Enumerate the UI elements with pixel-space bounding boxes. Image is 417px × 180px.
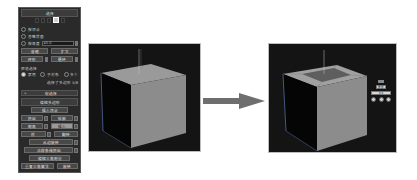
preview-selection-options: 禁用 子对象 多个 [21,71,78,77]
loop-spinner-icon[interactable] [75,57,78,62]
extrude-spline-row: 沿样条线挤出 [21,147,78,153]
selection-rollout-title: 选择 [46,11,54,16]
vertex-mode-icon[interactable] [35,18,39,23]
bridge-flip-row: 桥 翻转 [21,131,78,137]
shrink-grow-row: 收缩 扩大 [21,48,78,54]
checkbox-icon[interactable] [21,41,26,46]
ignore-backfacing-option[interactable]: 忽略背面 [21,33,78,39]
preview-off-radio[interactable]: 禁用 [21,72,36,77]
bevel-button[interactable]: 倒角 [21,123,43,129]
outline-button[interactable]: 轮廓 [51,115,73,121]
caddy-amount-spinner[interactable]: 0.0 [371,91,391,95]
selection-rollout-header[interactable]: 选择 [21,9,78,17]
bridge-settings-icon[interactable] [47,132,51,137]
hinge-from-edge-button[interactable]: 从边旋转 [29,139,73,145]
ok-icon[interactable] [371,97,376,102]
caddy-title-bar [378,80,384,83]
radio-icon[interactable] [40,72,45,77]
apply-icon[interactable] [379,97,384,102]
extrude-settings-icon[interactable] [44,116,48,121]
extrude-button[interactable]: 挤出 [21,115,43,121]
retriangulate-turn-row: 重复三角算法 旋转 [21,163,78,169]
soft-selection-rollout-header[interactable]: + 软选择 [21,90,78,96]
inset-settings-icon[interactable] [74,124,78,129]
inset-caddy: 按组 0.0 [371,80,391,102]
caddy-mode-dropdown[interactable]: 按组 [376,85,386,89]
by-angle-spinner[interactable]: 45.0 [42,41,75,46]
ring-loop-row: 环形 循环 [21,56,78,62]
preview-subobj-radio[interactable]: 子对象 [40,72,59,77]
grow-button[interactable]: 扩大 [51,48,78,54]
flip-button[interactable]: 翻转 [54,131,79,137]
preview-multi-label: 多个 [70,72,78,77]
bridge-button[interactable]: 桥 [21,131,46,137]
edit-poly-command-panel: 选择 按顶点 忽略背面 按角度 45.0 收缩 扩大 环形 循环 预览选择 禁用 [18,7,81,173]
extrude-along-spline-button[interactable]: 沿样条线挤出 [24,147,73,153]
ring-spinner-icon[interactable] [45,57,48,62]
extrude-outline-row: 挤出 轮廓 [21,115,78,121]
retriangulate-button[interactable]: 重复三角算法 [21,163,54,169]
edit-triangulation-button[interactable]: 编辑三角剖分 [29,155,70,161]
edge-mode-icon[interactable] [41,18,45,23]
expand-plus-icon: + [24,91,27,95]
bevel-inset-row: 倒角 插入 [21,123,78,129]
hinge-settings-icon[interactable] [74,140,78,145]
outline-settings-icon[interactable] [74,116,78,121]
radio-icon[interactable] [64,72,69,77]
radio-selected-icon[interactable] [21,72,26,77]
cube-before-icon [89,44,201,152]
element-mode-icon[interactable] [61,18,65,23]
turn-button[interactable]: 旋转 [57,163,78,169]
edit-polygons-rollout-header[interactable]: 编辑多边形 [21,98,78,106]
viewport-before[interactable] [88,43,201,152]
soft-selection-title: 软选择 [45,91,57,96]
inset-button[interactable]: 插入 [51,123,73,129]
shrink-button[interactable]: 收缩 [21,48,48,54]
loop-button[interactable]: 循环 [51,56,73,62]
insert-vertex-button[interactable]: 插入顶点 [31,107,68,113]
bevel-settings-icon[interactable] [44,124,48,129]
edit-polygons-title: 编辑多边形 [40,100,60,105]
by-angle-label: 按角度 [28,41,40,46]
insert-vertex-row: 插入顶点 [21,107,78,113]
subobject-level-buttons [21,17,78,23]
spinner-arrows-icon[interactable] [75,41,78,46]
by-angle-option[interactable]: 按角度 45.0 [21,40,78,46]
preview-subobj-label: 子对象 [47,72,59,77]
extrude-spline-settings-icon[interactable] [74,148,78,153]
checkbox-icon[interactable] [21,27,26,32]
by-vertex-option[interactable]: 按顶点 [21,26,78,32]
by-vertex-label: 按顶点 [28,27,40,32]
selection-status-text: 选择了多边形 5/8 [47,80,78,85]
caddy-actions [371,97,391,102]
ring-button[interactable]: 环形 [21,56,43,62]
ignore-backfacing-label: 忽略背面 [28,34,44,39]
cancel-icon[interactable] [386,97,391,102]
preview-off-label: 禁用 [28,72,36,77]
hinge-row: 从边旋转 [21,139,78,145]
checkbox-icon[interactable] [21,34,26,39]
selection-status-row: 选择了多边形 5/8 [21,79,78,85]
preview-multi-radio[interactable]: 多个 [64,72,79,77]
edit-triangulation-row: 编辑三角剖分 [21,155,78,161]
border-mode-icon[interactable] [47,18,51,23]
right-arrow-icon [203,93,265,109]
polygon-mode-icon[interactable] [53,17,59,23]
preview-selection-label: 预览选择 [21,66,37,71]
